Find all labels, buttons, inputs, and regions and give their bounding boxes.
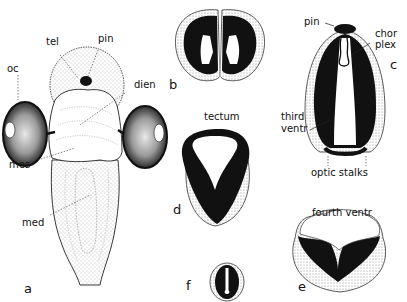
label-pineal-c: pin	[304, 17, 319, 27]
label-tectum: tectum	[204, 112, 240, 122]
label-plexus: plex	[375, 40, 396, 50]
panel-d-section	[182, 129, 250, 226]
label-optic-stalks: optic stalks	[311, 168, 368, 178]
panel-e-section	[293, 210, 386, 292]
label-third: third	[281, 112, 304, 122]
label-mesencephalon: mes	[9, 160, 30, 170]
label-pineal-a: pin	[98, 34, 113, 44]
label-diencephalon: dien	[134, 80, 156, 90]
brain-diagram	[0, 0, 407, 302]
panel-letter-e: e	[298, 280, 306, 293]
panel-b-section	[175, 10, 264, 81]
label-ventricle: ventr	[281, 124, 307, 134]
panel-c-section	[305, 23, 385, 166]
panel-letter-f: f	[186, 279, 191, 292]
label-optic-cup: oc	[7, 64, 19, 74]
label-fourth-ventricle: fourth ventr	[312, 208, 372, 218]
label-medulla: med	[22, 218, 44, 228]
panel-letter-c: c	[390, 58, 397, 71]
panel-f-section	[210, 263, 244, 301]
label-telencephalon: tel	[46, 37, 59, 47]
panel-letter-a: a	[24, 282, 32, 295]
panel-letter-b: b	[169, 78, 177, 91]
label-choroid: chor	[375, 29, 397, 39]
panel-letter-d: d	[173, 203, 181, 216]
